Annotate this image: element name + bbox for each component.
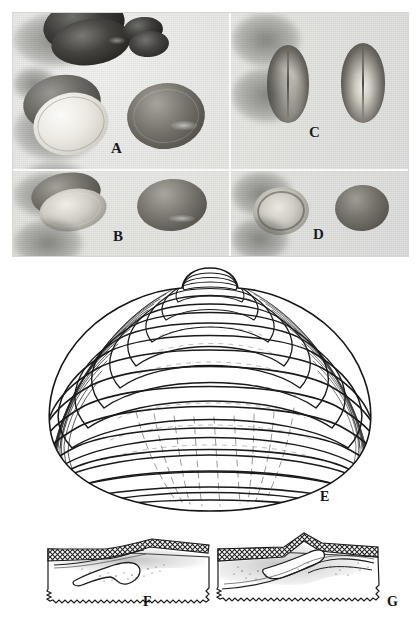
panel-label-c: C <box>309 125 320 140</box>
panel-label-a: A <box>111 141 122 156</box>
panel-label-e: E <box>320 489 329 505</box>
shell-exterior-line-drawing <box>40 262 380 512</box>
hinge-detail-f <box>40 527 220 619</box>
photo-quadrant-b: B <box>13 171 229 256</box>
specimen-shell <box>333 183 390 233</box>
photo-quadrant-c: C <box>231 13 408 169</box>
panel-label-f: F <box>143 594 152 610</box>
figure-plate: A C B D <box>0 0 419 623</box>
panel-label-b: B <box>113 229 124 244</box>
photo-divider-vertical <box>229 13 231 256</box>
panel-label-d: D <box>313 227 324 242</box>
specimen-shell <box>341 43 385 123</box>
photo-quadrant-d: D <box>231 171 408 256</box>
specimen-shell <box>135 177 208 234</box>
photo-divider-horizontal <box>13 169 408 171</box>
panel-label-g: G <box>387 594 398 610</box>
specimen-photograph-plate: A C B D <box>13 13 408 256</box>
photo-quadrant-a: A <box>13 13 229 169</box>
hinge-detail-g <box>212 527 392 619</box>
